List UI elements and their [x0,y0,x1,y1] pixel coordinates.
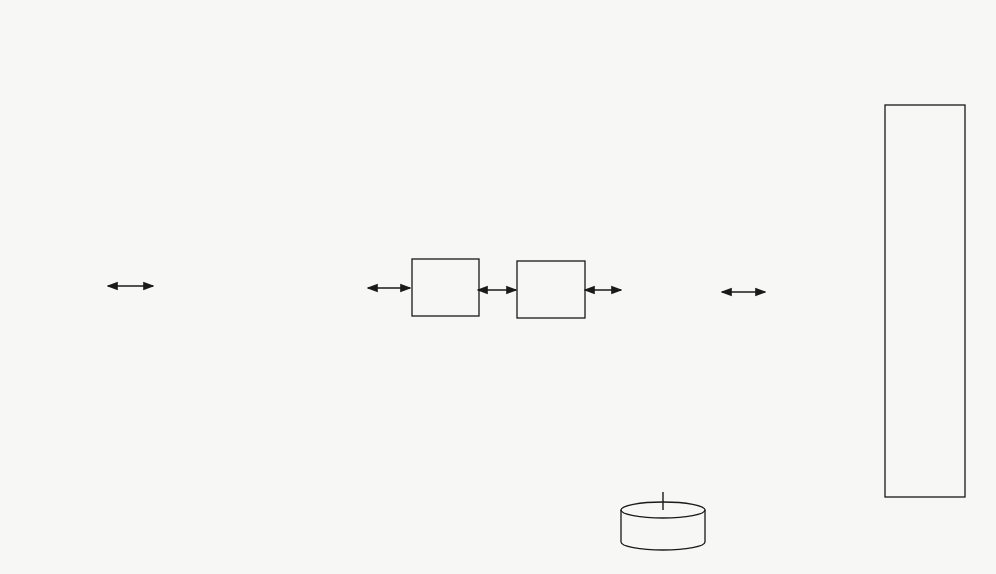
diagram-lines [0,0,996,574]
io-terminals-box [412,259,479,316]
cpu-box [517,261,585,318]
reports-box [885,105,965,497]
